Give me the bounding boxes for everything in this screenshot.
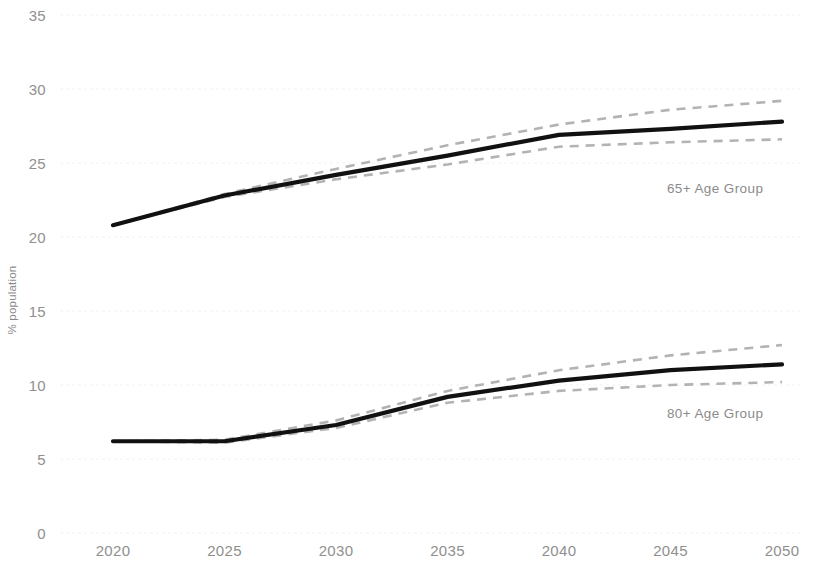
- y-axis-label-text: % population: [6, 266, 18, 335]
- line-chart: 05101520253035 2020202520302035204020452…: [0, 0, 835, 562]
- y-tick-label: 25: [29, 155, 46, 172]
- confidence-band-line: [113, 345, 782, 441]
- x-tick-label: 2050: [765, 542, 800, 559]
- series-annotation-label: 80+ Age Group: [667, 406, 763, 421]
- x-tick-label: 2025: [207, 542, 242, 559]
- y-tick-label: 20: [29, 229, 46, 246]
- y-tick-label: 15: [29, 303, 46, 320]
- y-tick-label: 30: [29, 81, 46, 98]
- y-tick-label: 0: [37, 525, 46, 542]
- y-tick-label: 35: [29, 7, 46, 24]
- y-axis-label: % population: [6, 266, 18, 335]
- series-line: [113, 122, 782, 226]
- y-tick-label: 5: [37, 451, 46, 468]
- x-tick-label: 2045: [653, 542, 688, 559]
- series-annotation-label: 65+ Age Group: [667, 181, 763, 196]
- y-tick-label: 10: [29, 377, 46, 394]
- y-axis-tick-label-group: 05101520253035: [29, 7, 46, 542]
- x-tick-label: 2035: [430, 542, 465, 559]
- x-tick-label: 2040: [542, 542, 577, 559]
- x-axis-tick-label-group: 2020202520302035204020452050: [96, 542, 800, 559]
- data-line-group: [113, 122, 782, 442]
- chart-container: 05101520253035 2020202520302035204020452…: [0, 0, 835, 562]
- confidence-band-line: [113, 101, 782, 225]
- x-tick-label: 2020: [96, 542, 131, 559]
- confidence-band-group: [113, 101, 782, 443]
- x-tick-label: 2030: [319, 542, 354, 559]
- gridline-group: [60, 15, 800, 533]
